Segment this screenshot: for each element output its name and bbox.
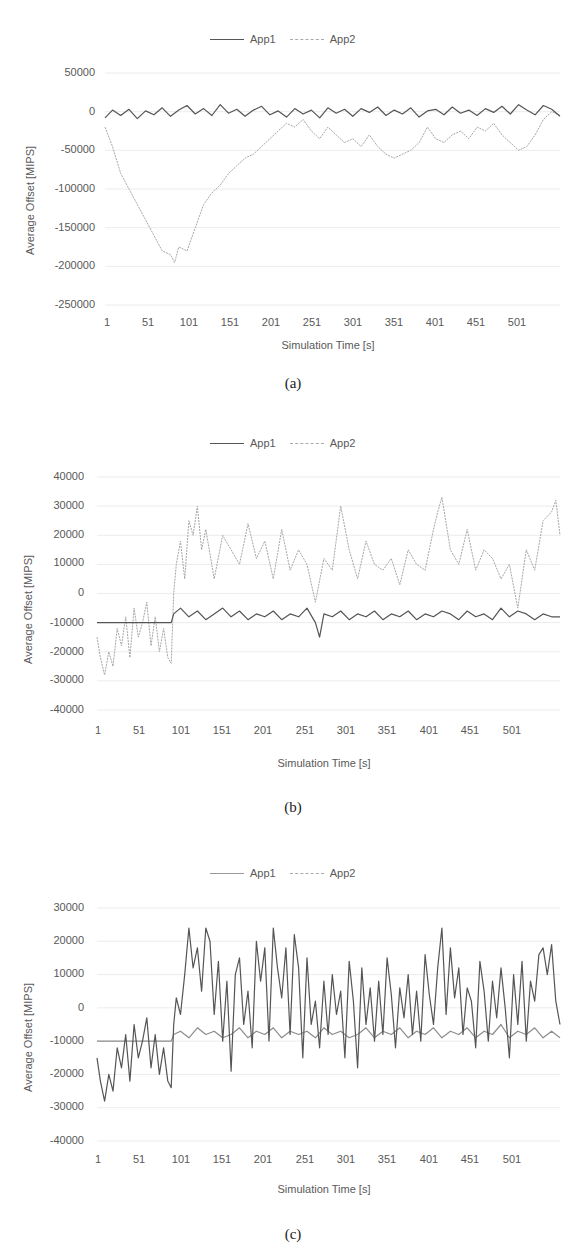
series-line-app2 <box>97 928 560 1101</box>
legend-item-app2: App2 <box>290 867 356 879</box>
plot-area <box>105 73 560 305</box>
y-axis-title: Average Offset [MIPS] <box>24 146 36 255</box>
legend-swatch-dashed-icon <box>290 39 324 40</box>
series-line-app2 <box>105 112 560 263</box>
legend: App1 App2 <box>210 437 369 449</box>
y-tick-label: 30000 <box>14 901 84 913</box>
x-tick-label: 201 <box>243 724 283 736</box>
legend-swatch-solid-icon <box>210 39 244 40</box>
x-tick-label: 501 <box>497 316 537 328</box>
y-tick-label: -200000 <box>25 259 95 271</box>
x-tick-label: 401 <box>409 724 449 736</box>
legend-label: App1 <box>250 33 276 45</box>
y-axis-title: Average Offset [MIPS] <box>22 983 34 1092</box>
x-tick-label: 101 <box>161 724 201 736</box>
x-tick-label: 501 <box>492 1153 532 1165</box>
x-tick-label: 501 <box>492 724 532 736</box>
x-axis-title: Simulation Time [s] <box>224 1183 424 1195</box>
x-tick-label: 1 <box>78 1153 118 1165</box>
x-tick-label: 51 <box>119 724 159 736</box>
legend-swatch-solid-icon <box>210 873 244 874</box>
figure-caption: (a) <box>263 375 323 392</box>
x-tick-label: 251 <box>292 316 332 328</box>
y-tick-label: -30000 <box>14 673 84 685</box>
legend: App1 App2 <box>210 33 369 45</box>
x-tick-label: 1 <box>87 316 127 328</box>
legend-item-app2: App2 <box>290 437 356 449</box>
y-tick-label: -40000 <box>14 1134 84 1146</box>
x-tick-label: 151 <box>202 1153 242 1165</box>
x-tick-label: 351 <box>367 1153 407 1165</box>
plot-area <box>97 477 560 710</box>
legend-item-app1: App1 <box>210 33 276 45</box>
x-axis-title: Simulation Time [s] <box>224 757 424 769</box>
x-tick-label: 151 <box>202 724 242 736</box>
legend-item-app2: App2 <box>290 33 356 45</box>
x-tick-label: 201 <box>243 1153 283 1165</box>
x-tick-label: 1 <box>78 724 118 736</box>
y-tick-label: 0 <box>25 105 95 117</box>
x-tick-label: 401 <box>415 316 455 328</box>
series-line-app2 <box>97 497 560 675</box>
plot-area <box>97 908 560 1141</box>
x-tick-label: 251 <box>285 1153 325 1165</box>
y-tick-label: 40000 <box>14 470 84 482</box>
legend-item-app1: App1 <box>210 437 276 449</box>
legend-label: App1 <box>250 867 276 879</box>
legend-item-app1: App1 <box>210 867 276 879</box>
x-tick-label: 51 <box>119 1153 159 1165</box>
x-tick-label: 451 <box>450 1153 490 1165</box>
x-tick-label: 201 <box>251 316 291 328</box>
legend-label: App1 <box>250 437 276 449</box>
x-tick-label: 351 <box>374 316 414 328</box>
legend-swatch-dashed-icon <box>290 873 324 874</box>
legend-label: App2 <box>330 867 356 879</box>
y-tick-label: 20000 <box>14 528 84 540</box>
x-tick-label: 101 <box>161 1153 201 1165</box>
y-tick-label: -30000 <box>14 1100 84 1112</box>
y-tick-label: 10000 <box>14 967 84 979</box>
y-tick-label: 30000 <box>14 499 84 511</box>
legend-swatch-dashed-icon <box>290 443 324 444</box>
x-axis-title: Simulation Time [s] <box>228 339 428 351</box>
legend-label: App2 <box>330 33 356 45</box>
x-tick-label: 301 <box>326 1153 366 1165</box>
y-tick-label: 50000 <box>25 66 95 78</box>
x-tick-label: 451 <box>450 724 490 736</box>
x-tick-label: 301 <box>326 724 366 736</box>
figure-caption: (c) <box>263 1226 323 1243</box>
y-axis-title: Average Offset [MIPS] <box>22 555 34 664</box>
x-tick-label: 301 <box>333 316 373 328</box>
x-tick-label: 451 <box>456 316 496 328</box>
legend-swatch-solid-icon <box>210 443 244 444</box>
legend: App1 App2 <box>210 867 369 879</box>
legend-label: App2 <box>330 437 356 449</box>
x-tick-label: 151 <box>210 316 250 328</box>
y-tick-label: 20000 <box>14 934 84 946</box>
x-tick-label: 351 <box>367 724 407 736</box>
y-tick-label: -40000 <box>14 703 84 715</box>
figure-caption: (b) <box>263 799 323 816</box>
y-tick-label: -250000 <box>25 298 95 310</box>
x-tick-label: 101 <box>169 316 209 328</box>
x-tick-label: 51 <box>128 316 168 328</box>
x-tick-label: 401 <box>409 1153 449 1165</box>
x-tick-label: 251 <box>285 724 325 736</box>
